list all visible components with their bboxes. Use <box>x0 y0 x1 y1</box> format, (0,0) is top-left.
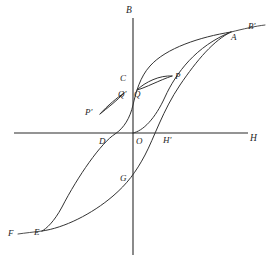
point-label-origin: O <box>136 137 143 146</box>
point-label-p-prime: P′ <box>85 108 92 117</box>
point-label-p: P <box>175 72 181 81</box>
point-label-a: A <box>231 33 237 42</box>
point-label-b-prime: B′ <box>248 22 255 31</box>
point-label-g: G <box>120 174 127 183</box>
axis-label-h: H <box>250 134 257 144</box>
point-label-h-prime: H′ <box>163 136 171 145</box>
point-label-q-prime: Q′ <box>118 90 126 99</box>
point-label-d: D <box>99 137 106 146</box>
point-label-f: F <box>8 229 14 238</box>
point-label-c: C <box>120 74 126 83</box>
point-label-e: E <box>34 228 40 237</box>
point-label-q: Q <box>134 90 141 99</box>
hysteresis-loop-figure: B H O A B′ C D E F G H′ P Q P′ Q′ <box>0 0 275 263</box>
axis-label-b: B <box>126 6 132 16</box>
